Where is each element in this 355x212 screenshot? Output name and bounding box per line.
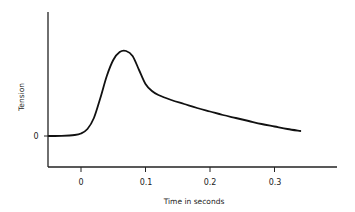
x-tick-label-0-1: 0.1 <box>140 178 153 187</box>
x-tick-label-0: 0 <box>78 178 83 187</box>
tension-curve <box>49 51 301 136</box>
y-axis-label: Tension <box>17 83 26 112</box>
tension-chart: 0 0 0.1 0.2 0.3 Time in seconds Tension <box>0 0 355 212</box>
x-tick-label-0-3: 0.3 <box>269 178 282 187</box>
x-ticks <box>81 167 275 172</box>
y-tick-label-zero: 0 <box>33 132 38 141</box>
x-axis-label: Time in seconds <box>163 197 225 206</box>
x-tick-label-0-2: 0.2 <box>204 178 217 187</box>
